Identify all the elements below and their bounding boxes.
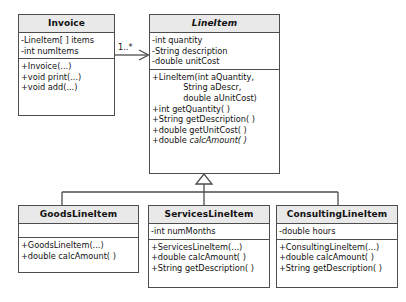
uml-class-diagram: 1..* Invoice -LineItem[ ] items -int num… [0, 0, 406, 302]
attributes-consulting-line-item: -double hours [277, 224, 397, 239]
operation: +double calcAmount( ) [151, 252, 269, 263]
operation: double aUnitCost) [152, 93, 279, 104]
operations-consulting-line-item: +ConsultingLineItem(...) +double calcAmo… [277, 239, 397, 276]
class-box-invoice[interactable]: Invoice -LineItem[ ] items -int numItems… [18, 14, 115, 116]
operations-invoice: +Invoice(...) +void print(...) +void add… [19, 58, 114, 95]
operation: +ServicesLineItem(...) [151, 242, 269, 253]
generalization-lineitem [62, 174, 338, 205]
operation: +Invoice(...) [21, 61, 114, 72]
operation: +String getDescription( ) [151, 263, 269, 274]
class-box-lineitem[interactable]: LineItem -int quantity -String descripti… [149, 14, 280, 174]
class-box-goods-line-item[interactable]: GoodsLineItem +GoodsLineItem(...) +doubl… [18, 205, 139, 273]
attributes-goods-line-item [19, 224, 138, 237]
operation: +String getDescription( ) [152, 114, 279, 125]
attribute: -double unitCost [152, 56, 279, 67]
attribute: -String description [152, 46, 279, 57]
class-name-invoice: Invoice [19, 15, 114, 33]
attribute: -int numMonths [151, 226, 269, 237]
attribute: -int quantity [152, 35, 279, 46]
attributes-lineitem: -int quantity -String description -doubl… [150, 33, 279, 69]
class-name-goods-line-item: GoodsLineItem [19, 206, 138, 224]
operation: +double calcAmount( ) [21, 251, 138, 262]
generalization-hollow-triangle [196, 174, 212, 184]
operation: +LineItem(int aQuantity, [152, 72, 279, 83]
attribute: -LineItem[ ] items [21, 35, 114, 46]
class-name-lineitem: LineItem [150, 15, 279, 33]
operation: +GoodsLineItem(...) [21, 240, 138, 251]
operation: String aDescr, [152, 82, 279, 93]
operation: +double calcAmount( ) [279, 252, 397, 263]
operation-abstract: +double calcAmount( ) [152, 135, 279, 146]
class-name-consulting-line-item: ConsultingLineItem [277, 206, 397, 224]
operation: +ConsultingLineItem(...) [279, 242, 397, 253]
operation: +double getUnitCost( ) [152, 125, 279, 136]
operations-lineitem: +LineItem(int aQuantity, String aDescr, … [150, 69, 279, 148]
operation: +void add(...) [21, 82, 114, 93]
operation-abstract-prefix: +double [152, 135, 189, 145]
multiplicity-label: 1..* [118, 42, 133, 52]
operations-goods-line-item: +GoodsLineItem(...) +double calcAmount( … [19, 237, 138, 263]
operation: +String getDescription( ) [279, 263, 397, 274]
class-box-consulting-line-item[interactable]: ConsultingLineItem -double hours +Consul… [276, 205, 398, 288]
attribute: -double hours [279, 226, 397, 237]
attributes-services-line-item: -int numMonths [149, 224, 269, 239]
attributes-invoice: -LineItem[ ] items -int numItems [19, 33, 114, 58]
operation: +void print(...) [21, 72, 114, 83]
association-open-arrowhead [139, 50, 149, 60]
attribute: -int numItems [21, 46, 114, 57]
operation-abstract-name: calcAmount( ) [189, 135, 246, 145]
class-name-services-line-item: ServicesLineItem [149, 206, 269, 224]
operation: +int getQuantity( ) [152, 104, 279, 115]
class-box-services-line-item[interactable]: ServicesLineItem -int numMonths +Service… [148, 205, 270, 288]
operations-services-line-item: +ServicesLineItem(...) +double calcAmoun… [149, 239, 269, 276]
